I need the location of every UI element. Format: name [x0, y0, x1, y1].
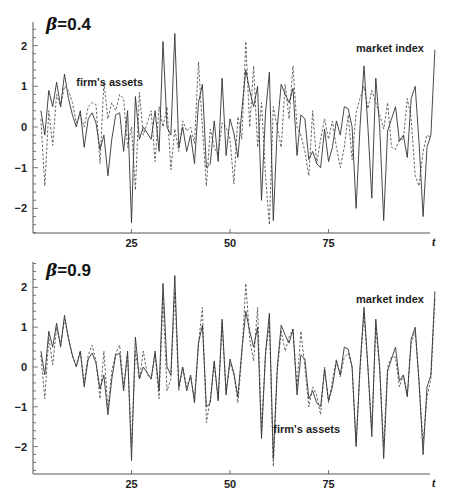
annotations: firm's assetsmarket index	[76, 42, 424, 89]
beta-symbol: β	[45, 14, 57, 34]
y-axis-ticks: 210−1−2	[14, 262, 38, 474]
panel-title: β=0.9	[45, 260, 91, 280]
beta-value: =0.9	[57, 261, 91, 280]
x-tick-label: 75	[322, 237, 334, 249]
y-axis-ticks: 210−1−2	[14, 22, 38, 233]
firms-assets-label: firm's assets	[76, 76, 143, 88]
x-axis-label: t	[432, 235, 436, 249]
y-tick-label: 1	[21, 321, 27, 333]
y-tick-label: 1	[21, 80, 27, 92]
x-axis-ticks: 255075	[33, 470, 430, 490]
panel-title: β=0.4	[45, 14, 91, 34]
x-tick-label: 75	[322, 478, 334, 490]
y-tick-label: −2	[14, 441, 27, 453]
x-tick-label: 50	[224, 237, 236, 249]
x-axis-ticks: 255075	[33, 229, 430, 249]
panel-beta-0-9: β=0.9 210−1−2 255075 market indexfirm's …	[14, 260, 436, 490]
firms-assets-label: firm's assets	[273, 423, 340, 435]
series-firms-assets-line	[41, 42, 431, 225]
y-tick-label: 0	[21, 361, 27, 373]
market-index-label: market index	[356, 293, 425, 305]
beta-symbol: β	[45, 260, 57, 280]
y-tick-label: 0	[21, 121, 27, 133]
market-index-label: market index	[356, 42, 425, 54]
x-tick-label: 25	[125, 478, 137, 490]
y-tick-label: −1	[14, 401, 27, 413]
figure: β=0.4 210−1−2 255075 firm's assetsmarket…	[0, 0, 449, 502]
series-market-index-line	[41, 33, 435, 222]
y-tick-label: 2	[21, 40, 27, 52]
annotations: market indexfirm's assets	[273, 293, 424, 434]
y-tick-label: 2	[21, 281, 27, 293]
x-tick-label: 50	[224, 478, 236, 490]
y-tick-label: −1	[14, 162, 27, 174]
panel-beta-0-4: β=0.4 210−1−2 255075 firm's assetsmarket…	[14, 14, 436, 249]
x-axis-label: t	[432, 476, 436, 490]
x-tick-label: 25	[125, 237, 137, 249]
y-tick-label: −2	[14, 202, 27, 214]
series-firms-assets-line	[41, 283, 435, 466]
beta-value: =0.4	[57, 15, 91, 34]
series-layer	[41, 33, 435, 224]
